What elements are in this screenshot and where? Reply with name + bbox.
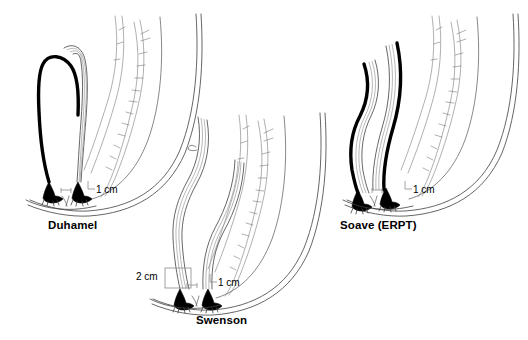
swenson-inner-arc xyxy=(216,116,286,298)
duhamel-rectal-stump xyxy=(64,46,87,182)
soave-right-bowel-limb xyxy=(373,43,401,190)
soave-mesentery xyxy=(401,16,442,173)
duhamel-anal-sphincter-right xyxy=(71,182,92,206)
soave-inner-arc xyxy=(409,17,479,199)
anatomy-line-art: .ln { fill:none; stroke:#3f3f3f; stroke-… xyxy=(0,0,528,340)
duhamel-anal-sphincter-left xyxy=(42,182,63,206)
measurement-label-soave-1cm: 1 cm xyxy=(413,184,435,195)
duhamel-colon-haustra xyxy=(101,20,150,197)
soave-left-bowel-limb xyxy=(351,60,379,193)
measurement-label-swenson-2cm: 2 cm xyxy=(136,271,158,282)
swenson-colon-haustra xyxy=(225,119,273,296)
measurement-label-swenson-1cm: 1 cm xyxy=(218,277,240,288)
swenson-measure-bracket-1cm xyxy=(187,274,217,288)
soave-measure-bracket-1cm xyxy=(372,181,412,193)
soave-anal-sphincter-left xyxy=(351,190,372,214)
duhamel-inner-arc xyxy=(92,17,162,199)
measurement-label-duhamel-1cm: 1 cm xyxy=(96,184,118,195)
panel-label-soave: Soave (ERPT) xyxy=(340,219,417,231)
panel-label-duhamel: Duhamel xyxy=(48,219,97,231)
duhamel-mesentery xyxy=(84,16,125,173)
swenson-left-bowel-limb xyxy=(173,117,209,289)
soave-colon-haustra xyxy=(418,20,466,197)
figure-canvas: .ln { fill:none; stroke:#3f3f3f; stroke-… xyxy=(0,0,528,340)
panel-label-swenson: Swenson xyxy=(196,314,247,326)
duhamel-pullthrough-bowel xyxy=(38,57,78,182)
swenson-mesentery xyxy=(208,115,249,272)
